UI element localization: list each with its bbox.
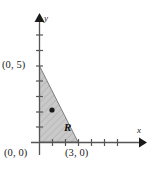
label-y-intercept: (0, 5): [2, 60, 25, 71]
y-axis-arrow-icon: [35, 13, 45, 22]
marked-point: [49, 107, 54, 112]
label-origin: (0, 0): [4, 148, 27, 159]
figure-canvas: y x (0, 5) (0, 0) (3, 0) R: [0, 0, 152, 170]
x-axis-arrow-icon: [139, 138, 147, 148]
region-label-R: R: [64, 122, 71, 133]
coordinate-plot: [0, 0, 152, 170]
y-axis-label: y: [44, 14, 48, 23]
label-x-intercept: (3, 0): [65, 148, 88, 159]
x-axis-label: x: [137, 126, 141, 135]
